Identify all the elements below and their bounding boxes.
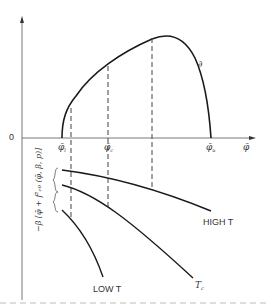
tc-label: Tc (195, 281, 204, 291)
x-axis-label: φ̄ (243, 143, 249, 152)
low-t-label: LOW T (93, 285, 121, 294)
curve-low-t (62, 210, 103, 277)
curve-high-t (62, 170, 211, 211)
high-t-label: HIGH T (203, 218, 233, 227)
curve-tc (62, 185, 193, 278)
x-axis-arrow-icon (249, 136, 256, 140)
tick-phi-c: φ̄c (104, 143, 113, 153)
upper-curve (62, 36, 211, 138)
curly-brace (53, 168, 58, 212)
phase-diagram: 0 φ̄ ∂ φ̄l φ̄c φ̄u −β [φ̄ + f²ₑ₀ (φ̄, β,… (0, 0, 266, 305)
y-lower-label: −β [φ̄ + f²ₑ₀ (φ̄, β, p)] (35, 148, 43, 232)
tick-phi-l: φ̄l (58, 143, 66, 153)
y-axis-arrow-icon (20, 16, 24, 23)
origin-label: 0 (9, 133, 14, 142)
upper-curve-label: ∂ (198, 60, 203, 69)
tick-phi-u: φ̄u (206, 143, 216, 153)
